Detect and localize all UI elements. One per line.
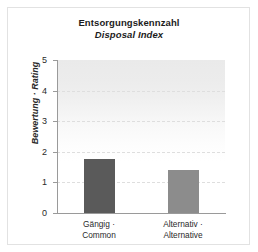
gridline (57, 91, 225, 92)
x-axis-line (57, 213, 226, 214)
gridline (57, 152, 225, 153)
x-axis-tick-label-line: Alternative (140, 230, 226, 241)
x-axis-tick-label: Alternativ ·Alternative (140, 219, 226, 240)
y-axis-tick-label: 5 (25, 55, 47, 65)
y-axis-tick (53, 152, 57, 153)
y-axis-tick (53, 121, 57, 122)
y-axis-tick-label: 4 (25, 86, 47, 96)
x-axis-tick-label: Gängig ·Common (56, 219, 142, 240)
y-axis-tick (53, 91, 57, 92)
gridline (57, 182, 225, 183)
y-axis-tick-label: 1 (25, 177, 47, 187)
plot-area (57, 60, 225, 213)
bar[interactable] (84, 159, 115, 213)
y-axis-tick (53, 213, 57, 214)
chart-figure: Entsorgungskennzahl Disposal Index Bewer… (0, 0, 258, 252)
y-axis-tick (53, 60, 57, 61)
bar[interactable] (168, 170, 199, 213)
y-axis-line (57, 60, 58, 214)
y-axis-tick-label: 2 (25, 147, 47, 157)
y-axis-tick-label: 0 (25, 208, 47, 218)
y-axis-tick (53, 182, 57, 183)
x-axis-tick-label-line: Common (56, 230, 142, 241)
gridline (57, 121, 225, 122)
x-axis-tick-label-line: Alternativ · (140, 219, 226, 230)
chart-title: Entsorgungskennzahl (0, 17, 258, 29)
y-axis-tick-label: 3 (25, 116, 47, 126)
x-axis-tick-label-line: Gängig · (56, 219, 142, 230)
